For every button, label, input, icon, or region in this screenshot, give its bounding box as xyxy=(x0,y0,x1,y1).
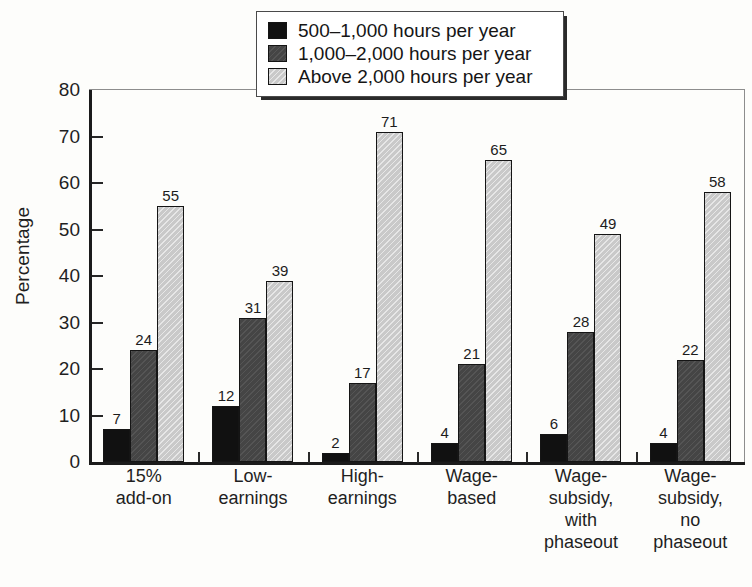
bar-value-label: 4 xyxy=(659,424,667,441)
bar-value-label: 17 xyxy=(354,364,371,381)
x-axis-tick xyxy=(417,452,419,463)
y-axis-tick-label: 10 xyxy=(59,405,80,427)
plot-area: 01020304050607080 7245512313921771421656… xyxy=(89,90,745,462)
x-axis-tick xyxy=(636,452,638,463)
x-axis-category-line: High- xyxy=(308,465,417,487)
bar: 12 xyxy=(212,406,239,462)
x-axis-category-line: based xyxy=(417,487,526,509)
bar: 22 xyxy=(677,360,704,462)
bar-value-label: 4 xyxy=(440,424,448,441)
x-axis-category-line: earnings xyxy=(308,487,417,509)
y-axis-tick-label: 80 xyxy=(59,79,80,101)
x-axis-category-line: 15% xyxy=(89,465,198,487)
bar-group: 21771 xyxy=(308,90,417,462)
y-axis-tick-label: 60 xyxy=(59,172,80,194)
bar-group: 72455 xyxy=(89,90,198,462)
bar-value-label: 21 xyxy=(463,345,480,362)
x-axis-category-label: Wage-based xyxy=(417,465,526,509)
bar: 65 xyxy=(485,160,512,462)
bar-value-label: 55 xyxy=(162,187,179,204)
bar-value-label: 6 xyxy=(550,415,558,432)
chart-legend: 500–1,000 hours per year1,000–2,000 hour… xyxy=(256,11,564,97)
x-axis-tick xyxy=(308,452,310,463)
x-axis-category-line: add-on xyxy=(89,487,198,509)
bar: 31 xyxy=(239,318,266,462)
bar-group: 42165 xyxy=(417,90,526,462)
x-axis-category-line: subsidy, xyxy=(526,487,635,509)
x-axis-category-line: phaseout xyxy=(526,531,635,553)
bar-value-label: 2 xyxy=(331,434,339,451)
legend-item-label: 500–1,000 hours per year xyxy=(298,20,516,42)
bar: 71 xyxy=(376,132,403,462)
y-axis-title: Percentage xyxy=(12,156,34,356)
bar: 7 xyxy=(103,429,130,462)
y-axis-tick-label: 0 xyxy=(69,451,80,473)
legend-swatch-icon xyxy=(268,22,287,39)
y-axis-tick-label: 40 xyxy=(59,265,80,287)
x-axis-category-label: 15%add-on xyxy=(89,465,198,509)
legend-item: Above 2,000 hours per year xyxy=(268,65,553,88)
x-axis-category-line: earnings xyxy=(198,487,307,509)
x-axis-tick xyxy=(198,452,200,463)
x-axis-tick xyxy=(526,452,528,463)
bar-group: 123139 xyxy=(198,90,307,462)
bar-value-label: 65 xyxy=(490,141,507,158)
bar-value-label: 39 xyxy=(272,262,289,279)
bar: 24 xyxy=(130,350,157,462)
bar-value-label: 28 xyxy=(573,313,590,330)
bar-group: 42258 xyxy=(636,90,745,462)
x-axis-category-label: Low-earnings xyxy=(198,465,307,509)
bar: 2 xyxy=(322,453,349,462)
legend-item-label: 1,000–2,000 hours per year xyxy=(298,43,531,65)
x-axis-category-label: Wage-subsidy,withphaseout xyxy=(526,465,635,553)
bar: 4 xyxy=(431,443,458,462)
bar-chart-figure: Percentage 01020304050607080 72455123139… xyxy=(0,0,752,587)
x-axis-category-line: Wage- xyxy=(636,465,745,487)
x-axis-category-line: no xyxy=(636,509,745,531)
x-axis-category-line: phaseout xyxy=(636,531,745,553)
bar-value-label: 12 xyxy=(218,387,235,404)
bar-value-label: 7 xyxy=(112,410,120,427)
legend-item-label: Above 2,000 hours per year xyxy=(298,66,533,88)
bar-value-label: 31 xyxy=(245,299,262,316)
legend-item: 500–1,000 hours per year xyxy=(268,19,553,42)
y-axis-tick-label: 20 xyxy=(59,358,80,380)
bar: 28 xyxy=(567,332,594,462)
bar: 39 xyxy=(266,281,293,462)
bar-value-label: 71 xyxy=(381,113,398,130)
bar: 6 xyxy=(540,434,567,462)
y-axis-tick-label: 30 xyxy=(59,312,80,334)
bar: 58 xyxy=(704,192,731,462)
legend-swatch-icon xyxy=(268,68,287,85)
bar: 4 xyxy=(650,443,677,462)
legend-swatch-icon xyxy=(268,45,287,62)
bar-value-label: 49 xyxy=(600,215,617,232)
bar-value-label: 58 xyxy=(709,173,726,190)
bar: 49 xyxy=(594,234,621,462)
x-axis-category-label: Wage-subsidy,nophaseout xyxy=(636,465,745,553)
bar: 55 xyxy=(157,206,184,462)
x-axis-category-line: with xyxy=(526,509,635,531)
x-axis-category-line: Wage- xyxy=(417,465,526,487)
x-axis-category-line: Low- xyxy=(198,465,307,487)
legend-item: 1,000–2,000 hours per year xyxy=(268,42,553,65)
x-axis-category-label: High-earnings xyxy=(308,465,417,509)
x-axis-category-line: Wage- xyxy=(526,465,635,487)
bar: 21 xyxy=(458,364,485,462)
y-axis-tick-label: 50 xyxy=(59,219,80,241)
x-axis-category-line: subsidy, xyxy=(636,487,745,509)
bar-value-label: 22 xyxy=(682,341,699,358)
y-axis-tick-label: 70 xyxy=(59,126,80,148)
bar-group: 62849 xyxy=(526,90,635,462)
bar-value-label: 24 xyxy=(135,331,152,348)
bar: 17 xyxy=(349,383,376,462)
